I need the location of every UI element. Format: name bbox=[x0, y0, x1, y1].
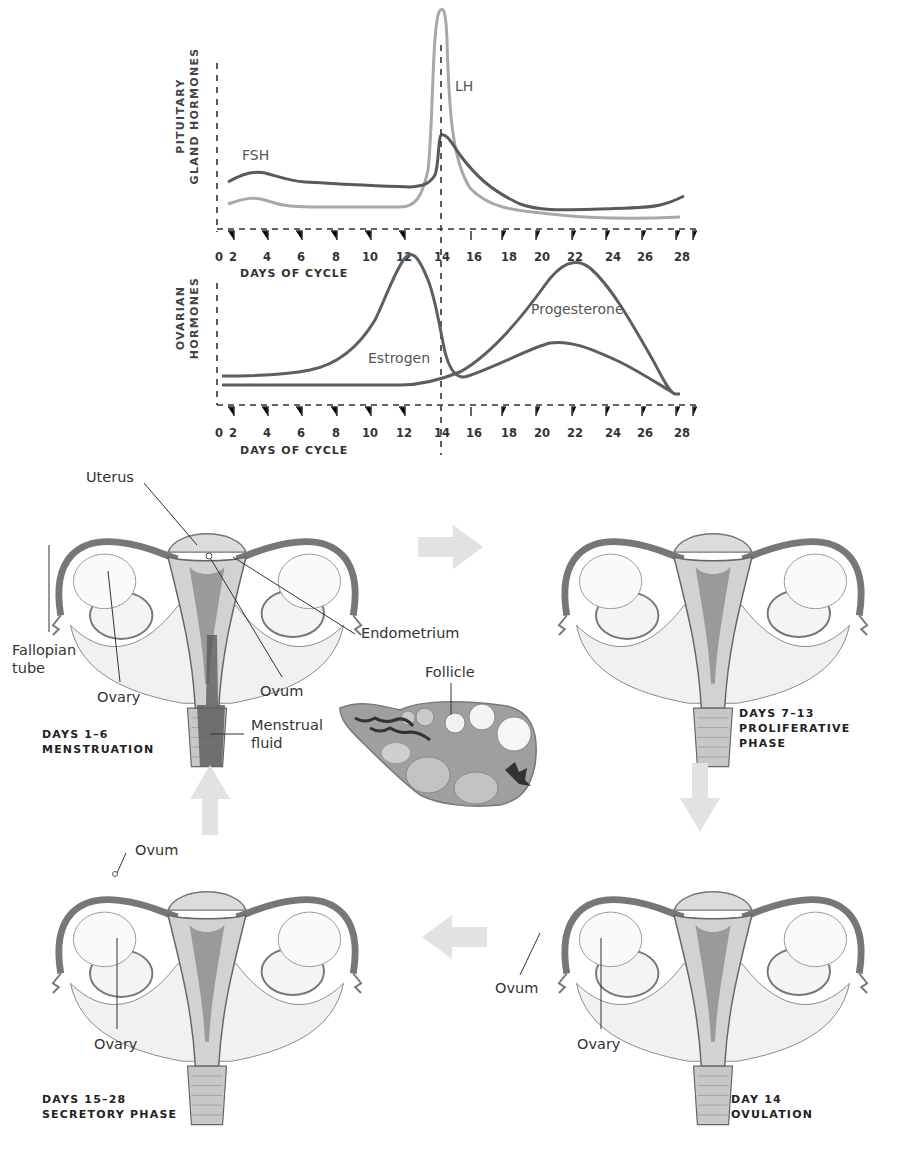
arrow-right-icon bbox=[418, 525, 483, 569]
cycle-arrows bbox=[0, 0, 919, 1161]
arrow-left-icon bbox=[422, 915, 487, 959]
arrow-up-icon bbox=[190, 765, 230, 835]
arrow-down-icon bbox=[680, 763, 720, 832]
